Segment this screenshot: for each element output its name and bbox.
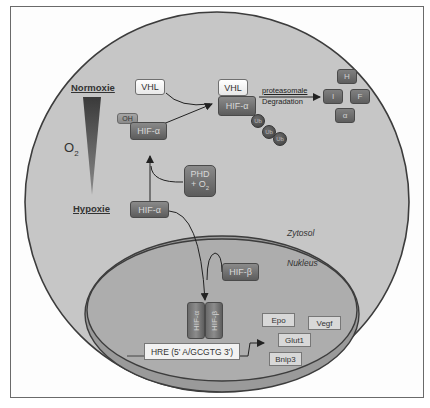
oxygen-label-o: O [64,140,74,155]
phd-label: PHD [190,169,209,179]
vhl-box-free: VHL [135,79,165,95]
fragment-alpha: α [335,108,355,123]
degradation-label-line2: Degradation [262,97,303,106]
phd-o2-sub: 2 [206,185,209,191]
ubiquitin-1: Ub [251,114,265,128]
gene-vegf: Vegf [308,316,341,330]
oxygen-label-sub: 2 [74,149,78,158]
hif-alpha-bound: HIF-α [218,96,256,116]
hif-alpha-dimer-subunit: HIF-α [187,302,205,339]
hif-alpha-hypoxic: HIF-α [130,201,169,218]
degradation-label-line1: proteasomale [262,86,307,95]
fragment-h: H [337,69,357,84]
ubiquitin-3: Ub [273,132,287,146]
gene-epo: Epo [262,313,295,327]
oxygen-label: O2 [64,140,79,158]
nucleus-label: Nukleus [287,258,318,268]
hif-alpha-dimer-label: HIF-α [192,310,201,330]
hre-box: HRE (5' A/GCGTG 3') [144,343,240,360]
hif-beta-dimer-subunit: HIF-β [205,302,223,339]
phd-o2-text: + O [191,179,206,189]
vhl-box-bound: VHL [218,79,248,96]
gene-bnip3: Bnip3 [269,352,302,366]
hif-beta-box: HIF-β [222,263,259,281]
fragment-i: I [323,89,343,104]
phd-o2-box: PHD + O2 [184,165,216,197]
cytosol-label: Zytosol [287,228,314,238]
hif-alpha-hydroxylated: HIF-α [130,122,167,140]
gene-glut1: Glut1 [278,333,311,347]
hif-beta-dimer-label: HIF-β [210,310,219,330]
fragment-f: F [350,89,370,104]
normoxia-label: Normoxie [71,82,115,93]
phd-o2-label: + O2 [191,179,209,193]
hypoxia-label: Hypoxie [73,203,110,214]
